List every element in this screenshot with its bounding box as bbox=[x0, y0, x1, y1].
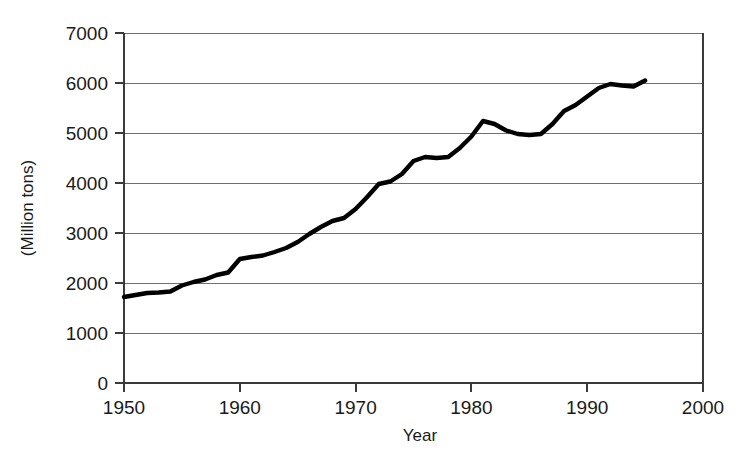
data-series-line bbox=[124, 81, 645, 298]
y-tick-labels-group: 01000200030004000500060007000 bbox=[66, 23, 108, 394]
chart-figure: 01000200030004000500060007000 1950196019… bbox=[0, 0, 747, 462]
gridlines-group bbox=[124, 33, 703, 333]
y-tick-label: 3000 bbox=[66, 223, 108, 244]
x-tick-label: 1950 bbox=[103, 397, 145, 418]
x-tick-labels-group: 195019601970198019902000 bbox=[103, 397, 724, 418]
line-chart: 01000200030004000500060007000 1950196019… bbox=[0, 0, 747, 462]
y-tick-label: 2000 bbox=[66, 273, 108, 294]
tick-marks-group bbox=[115, 33, 703, 392]
x-tick-label: 1980 bbox=[450, 397, 492, 418]
x-tick-label: 1990 bbox=[566, 397, 608, 418]
y-tick-label: 6000 bbox=[66, 73, 108, 94]
y-tick-label: 7000 bbox=[66, 23, 108, 44]
x-tick-label: 1970 bbox=[334, 397, 376, 418]
y-tick-label: 5000 bbox=[66, 123, 108, 144]
x-tick-label: 2000 bbox=[682, 397, 724, 418]
y-tick-label: 1000 bbox=[66, 323, 108, 344]
x-axis-title: Year bbox=[403, 426, 438, 445]
y-axis-title: (Million tons) bbox=[18, 160, 37, 256]
y-tick-label: 4000 bbox=[66, 173, 108, 194]
x-tick-label: 1960 bbox=[219, 397, 261, 418]
y-tick-label: 0 bbox=[97, 373, 108, 394]
